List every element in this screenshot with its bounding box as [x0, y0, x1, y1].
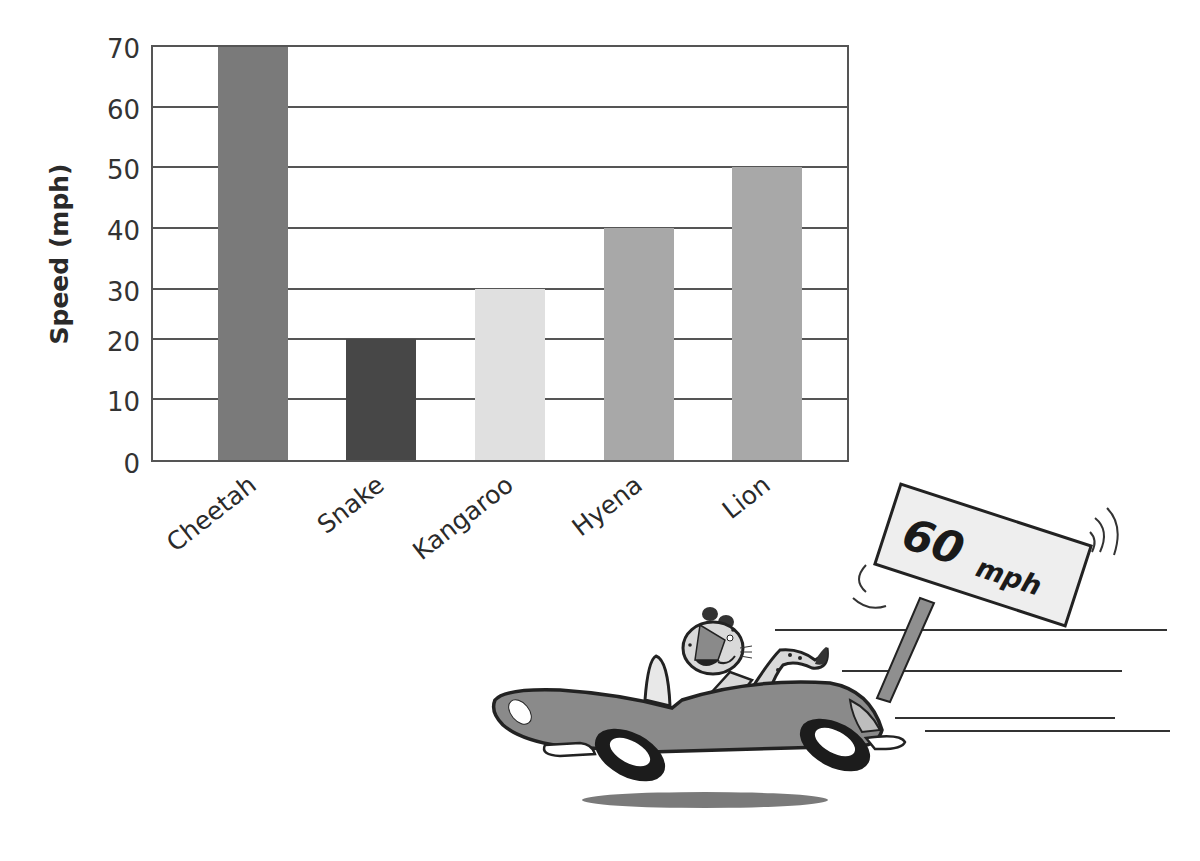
bar-cheetah [218, 46, 288, 461]
bar-snake [346, 339, 416, 461]
y-axis-ticks: 010203040506070 [107, 34, 140, 479]
y-tick-label: 10 [107, 387, 140, 417]
y-tick-label: 30 [107, 277, 140, 307]
y-tick-label: 0 [123, 449, 140, 479]
bar-hyena [604, 228, 674, 461]
car-icon [494, 682, 905, 792]
car-shadow [582, 792, 828, 808]
y-axis-label: Speed (mph) [45, 163, 74, 344]
chart-figure: 010203040506070 Speed (mph) CheetahSnake… [0, 0, 1200, 861]
bar-chart: 010203040506070 Speed (mph) CheetahSnake… [0, 0, 1200, 861]
x-tick-label: Lion [717, 470, 776, 525]
speed-sign: 60 mph [875, 484, 1091, 626]
x-tick-label: Snake [312, 470, 390, 540]
x-tick-label: Kangaroo [407, 470, 518, 566]
bar-kangaroo [475, 289, 545, 461]
windshield-icon [645, 656, 670, 706]
x-tick-label: Hyena [567, 470, 648, 542]
sign-post-icon [877, 598, 934, 702]
y-tick-label: 60 [107, 95, 140, 125]
y-tick-label: 50 [107, 155, 140, 185]
y-tick-label: 20 [107, 327, 140, 357]
y-tick-label: 40 [107, 216, 140, 246]
bar-lion [732, 167, 802, 461]
x-axis-labels: CheetahSnakeKangarooHyenaLion [161, 470, 776, 566]
x-tick-label: Cheetah [161, 470, 262, 558]
y-tick-label: 70 [107, 34, 140, 64]
